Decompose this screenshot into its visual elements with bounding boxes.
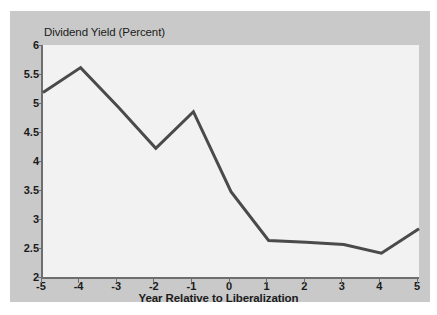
x-tick-mark [41,279,42,283]
y-tick-mark [38,103,42,104]
y-tick-mark [38,45,42,46]
y-tick-mark [38,132,42,133]
x-tick-mark [229,279,230,283]
x-tick-mark [153,279,154,283]
dividend-yield-line [43,68,419,254]
x-tick-mark [116,279,117,283]
y-tick-mark [38,277,42,278]
x-tick-mark [266,279,267,283]
x-axis-title: Year Relative to Liberalization [0,292,437,304]
x-tick-mark [417,279,418,283]
x-tick-mark [341,279,342,283]
y-tick-mark [38,161,42,162]
x-tick-mark [304,279,305,283]
plot-area [41,45,419,279]
y-tick-mark [38,190,42,191]
chart-figure: Dividend Yield (Percent) 22.533.544.555.… [0,0,437,315]
data-series-line [43,45,419,277]
x-tick-mark [78,279,79,283]
x-tick-mark [191,279,192,283]
y-tick-mark [38,219,42,220]
y-tick-mark [38,74,42,75]
y-tick-mark [38,248,42,249]
x-tick-mark [379,279,380,283]
